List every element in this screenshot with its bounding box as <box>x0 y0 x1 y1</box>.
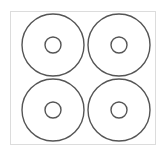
disc-outer-ring <box>22 79 84 141</box>
disc-hub-ring <box>45 37 61 53</box>
disc-top-left <box>22 14 84 76</box>
disc-hub-ring <box>111 102 127 118</box>
disc-bottom-left <box>22 79 84 141</box>
disc-outer-ring <box>88 14 150 76</box>
disc-hub-ring <box>45 102 61 118</box>
disc-hub-ring <box>111 37 127 53</box>
disc-top-right <box>88 14 150 76</box>
cd-label-template <box>0 0 166 154</box>
disc-outer-ring <box>88 79 150 141</box>
disc-bottom-right <box>88 79 150 141</box>
disc-outer-ring <box>22 14 84 76</box>
